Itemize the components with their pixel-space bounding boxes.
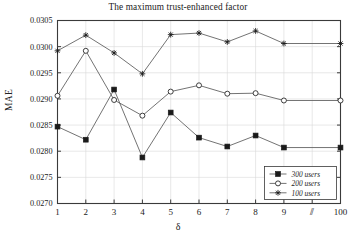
x-axis-ticks: 123456789⫽100 [55, 200, 348, 218]
svg-text:0.0290: 0.0290 [30, 95, 53, 104]
svg-text:2: 2 [84, 207, 89, 217]
svg-text:0.0285: 0.0285 [30, 121, 53, 130]
svg-text:100: 100 [334, 207, 348, 217]
svg-text:9: 9 [282, 207, 287, 217]
svg-text:5: 5 [168, 207, 173, 217]
svg-text:100 users: 100 users [292, 189, 321, 198]
svg-text:⫽: ⫽ [309, 207, 314, 217]
svg-text:0.0275: 0.0275 [30, 173, 53, 182]
svg-text:7: 7 [225, 207, 230, 217]
svg-text:0.0305: 0.0305 [30, 16, 53, 25]
svg-text:6: 6 [197, 207, 202, 217]
svg-text:0.0300: 0.0300 [30, 43, 53, 52]
legend: 300 users200 users100 users [265, 167, 337, 200]
svg-text:4: 4 [140, 207, 145, 217]
svg-text:0.0295: 0.0295 [30, 69, 53, 78]
svg-text:1: 1 [55, 207, 60, 217]
svg-text:0.0280: 0.0280 [30, 147, 53, 156]
svg-text:0.0270: 0.0270 [30, 199, 53, 208]
plot-area: 0.02700.02750.02800.02850.02900.02950.03… [0, 0, 356, 238]
chart-figure: The maximum trust-enhanced factor MAE δ … [0, 0, 356, 238]
svg-text:3: 3 [112, 207, 117, 217]
svg-text:300 users: 300 users [291, 170, 321, 179]
svg-text:8: 8 [253, 207, 258, 217]
svg-text:200 users: 200 users [292, 179, 321, 188]
